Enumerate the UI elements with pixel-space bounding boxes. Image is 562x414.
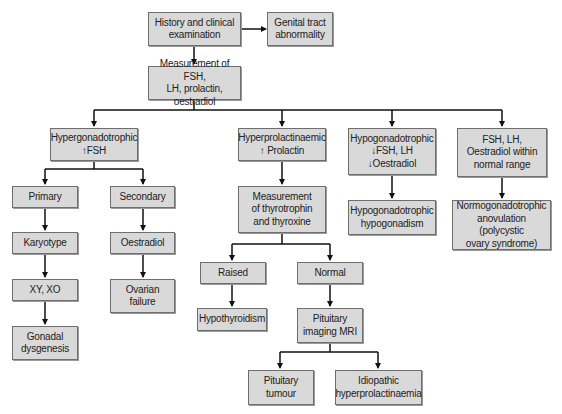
node-primary: Primary: [12, 186, 78, 208]
node-normal-range: FSH, LH, Oestradiol within normal range: [457, 128, 547, 177]
node-ovarian-failure: Ovarian failure: [110, 279, 175, 313]
node-hypogonadotrophic-hypogonadism: Hypogonadotrophic hypogonadism: [348, 200, 436, 235]
node-hypothyroidism: Hypothyroidism: [197, 308, 267, 331]
node-karyotype: Karyotype: [12, 232, 78, 254]
node-measurement-hormones: Measurement of FSH, LH, prolactin, oestr…: [148, 66, 241, 100]
node-gonadal-dysgenesis: Gonadal dysgenesis: [12, 326, 78, 360]
node-normal: Normal: [297, 262, 363, 284]
node-secondary: Secondary: [110, 186, 175, 208]
node-normogonadotrophic: Normogonadotrophic anovulation (polycyst…: [452, 200, 551, 250]
node-history: History and clinical examination: [148, 12, 241, 46]
node-pituitary-mri: Pituitary imaging MRI: [297, 308, 363, 343]
node-xy-xo: XY, XO: [12, 279, 78, 301]
node-genital-tract: Genital tract abnormality: [267, 12, 333, 46]
node-hyperprolactinaemic: Hyperprolactinaemic ↑ Prolactin: [238, 128, 326, 161]
node-idiopathic-hyperprolactinaemia: Idiopathic hyperprolactinaemia: [335, 370, 422, 405]
node-hypogonadotrophic: Hypogonadotrophic ↓FSH, LH ↓Oestradiol: [348, 128, 436, 175]
node-oestradiol: Oestradiol: [110, 232, 175, 254]
node-raised: Raised: [200, 262, 266, 284]
node-hypergonadotrophic: Hypergonadotrophic ↑FSH: [50, 128, 138, 161]
node-pituitary-tumour: Pituitary tumour: [248, 370, 314, 405]
node-thyro-measurement: Measurement of thyrotrophin and thyroxin…: [238, 186, 326, 233]
